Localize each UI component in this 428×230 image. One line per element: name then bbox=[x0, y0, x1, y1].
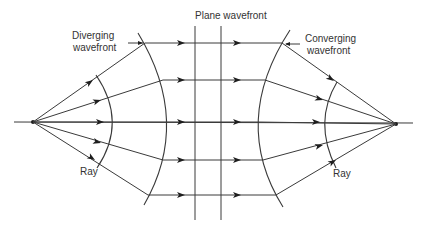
parallel-rays bbox=[145, 43, 282, 195]
label-ray-right: Ray bbox=[333, 168, 351, 179]
label-ray-left: Ray bbox=[80, 166, 98, 177]
converging-rays bbox=[258, 43, 396, 195]
inner-converging-wavefront-arc bbox=[325, 82, 337, 168]
diverging-wavefront-arc bbox=[138, 33, 167, 205]
diverging-rays bbox=[33, 43, 170, 195]
arrowheads bbox=[85, 40, 338, 198]
wavefront-diagram: Diverging wavefront Plane wavefront Conv… bbox=[0, 0, 428, 230]
converging-wavefront-arc bbox=[258, 30, 290, 207]
label-converging-2: wavefront bbox=[306, 45, 351, 56]
label-converging-1: Converging bbox=[305, 33, 356, 44]
label-diverging-1: Diverging bbox=[72, 30, 114, 41]
label-plane: Plane wavefront bbox=[195, 10, 267, 21]
label-diverging-2: wavefront bbox=[72, 42, 117, 53]
